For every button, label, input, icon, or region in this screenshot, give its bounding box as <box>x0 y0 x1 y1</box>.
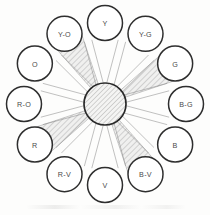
spoke-y <box>106 40 118 84</box>
hue-node-b-g[interactable]: B-G <box>169 87 204 122</box>
color-wheel-figure: YY-GGB-GBB-VVR-VRR-OOY-O <box>0 0 210 215</box>
spoke-b-g <box>125 105 169 117</box>
hue-node-r-o[interactable]: R-O <box>7 87 42 122</box>
hue-node-r[interactable]: R <box>17 127 52 162</box>
hue-node-v[interactable]: V <box>88 168 123 203</box>
hue-label-y-o: Y-O <box>58 30 71 39</box>
hue-label-o: O <box>32 60 38 69</box>
hue-label-y-g: Y-G <box>139 30 152 39</box>
hue-label-b-v: B-V <box>139 170 152 179</box>
hue-label-b-g: B-G <box>179 100 193 109</box>
hue-label-b: B <box>173 141 178 150</box>
hue-node-b-v[interactable]: B-V <box>128 157 163 192</box>
hue-node-b[interactable]: B <box>158 127 193 162</box>
spoke-r-v <box>84 122 96 166</box>
center-hub-circle <box>84 83 126 125</box>
hue-label-r-v: R-V <box>58 170 71 179</box>
hue-node-r-v[interactable]: R-V <box>47 157 82 192</box>
hue-label-r: R <box>32 141 38 150</box>
hue-node-o[interactable]: O <box>17 46 52 81</box>
spoke-y-g <box>114 42 126 86</box>
spoke-r-o <box>41 91 85 103</box>
hue-node-y[interactable]: Y <box>88 6 123 41</box>
hue-label-y: Y <box>102 19 107 28</box>
hue-label-r-o: R-O <box>17 100 31 109</box>
hue-label-g: G <box>172 60 178 69</box>
color-wheel-svg: YY-GGB-GBB-VVR-VRR-OOY-O <box>0 0 210 215</box>
spoke-v <box>92 124 104 168</box>
spoke-o <box>43 83 87 95</box>
hue-label-v: V <box>102 181 107 190</box>
hue-node-y-o[interactable]: Y-O <box>47 16 82 51</box>
hue-node-g[interactable]: G <box>158 46 193 81</box>
spoke-b <box>123 113 167 125</box>
hue-node-y-g[interactable]: Y-G <box>128 16 163 51</box>
center-hub <box>84 83 126 125</box>
